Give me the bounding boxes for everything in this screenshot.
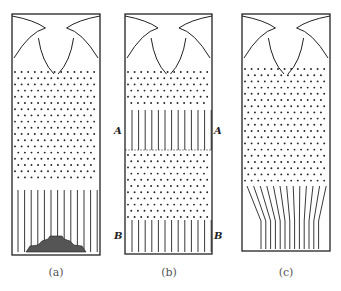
flask-right-lip	[179, 16, 212, 58]
marker-a-right: A	[214, 125, 222, 136]
diagram-canvas	[0, 0, 341, 291]
panel-c-frame	[242, 14, 330, 251]
panel-b-frame	[125, 14, 212, 254]
panel-a-label: (a)	[36, 266, 76, 279]
flask-right-neck	[171, 38, 186, 74]
marker-b-left: B	[114, 230, 122, 241]
flask-right-lip	[67, 16, 100, 58]
flask-left-lip	[125, 16, 158, 58]
flask-right-neck	[58, 38, 74, 74]
flask-left-neck	[38, 38, 54, 74]
marker-b-right: B	[214, 230, 222, 241]
flask-left-neck	[151, 38, 166, 74]
marker-a-left: A	[114, 125, 122, 136]
flask-left-lip	[12, 16, 45, 58]
panel-c-label: (c)	[266, 266, 306, 279]
flask-right-lip	[297, 16, 330, 58]
panel-b-label: (b)	[149, 266, 189, 279]
flask-left-lip	[242, 16, 275, 58]
